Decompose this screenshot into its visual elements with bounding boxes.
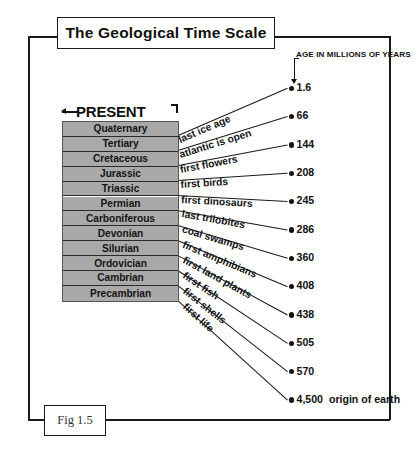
- age-dot: [289, 312, 294, 317]
- age-number: 1.6: [297, 81, 312, 93]
- age-number: 245: [297, 194, 315, 206]
- period-row[interactable]: Jurassic: [63, 167, 178, 182]
- age-value: 360: [297, 251, 315, 263]
- age-value: 144: [297, 138, 315, 150]
- age-number: 570: [297, 365, 315, 377]
- period-label: Tertiary: [102, 138, 138, 149]
- period-label: Cretaceous: [93, 153, 148, 164]
- period-row[interactable]: Quaternary: [63, 122, 178, 137]
- age-value: 1.6: [297, 81, 312, 93]
- age-number: 438: [297, 308, 315, 320]
- period-row[interactable]: Ordovician: [63, 256, 178, 271]
- origin-of-earth-note: origin of earth: [329, 393, 400, 405]
- period-row[interactable]: Silurian: [63, 241, 178, 256]
- period-row[interactable]: Cretaceous: [63, 152, 178, 167]
- period-row[interactable]: Tertiary: [63, 137, 178, 152]
- period-label: Precambrian: [90, 288, 151, 299]
- age-dot: [289, 86, 294, 91]
- age-value: 4,500 origin of earth: [297, 393, 401, 405]
- age-dot: [289, 171, 294, 176]
- age-value: 505: [297, 336, 315, 348]
- geological-time-scale-figure: The Geological Time Scale Fig 1.5 PRESEN…: [0, 0, 419, 459]
- age-number: 360: [297, 251, 315, 263]
- age-value: 286: [297, 223, 315, 235]
- period-label: Cambrian: [97, 272, 144, 283]
- period-row[interactable]: Triassic: [63, 182, 178, 197]
- age-number: 144: [297, 138, 315, 150]
- period-label: Permian: [101, 198, 141, 209]
- age-dot: [289, 114, 294, 119]
- age-dot: [289, 142, 294, 147]
- period-row[interactable]: Precambrian: [63, 286, 178, 301]
- age-dot: [289, 397, 294, 402]
- period-row[interactable]: Devonian: [63, 226, 178, 241]
- age-dot: [289, 341, 294, 346]
- age-value: 570: [297, 365, 315, 377]
- period-row[interactable]: Permian: [63, 197, 178, 212]
- age-dot: [289, 256, 294, 261]
- period-table: QuaternaryTertiaryCretaceousJurassicTria…: [62, 121, 179, 302]
- age-number: 4,500: [297, 393, 324, 405]
- period-label: Ordovician: [94, 258, 147, 269]
- period-row[interactable]: Carboniferous: [63, 211, 178, 226]
- period-row[interactable]: Cambrian: [63, 271, 178, 286]
- period-label: Triassic: [102, 183, 140, 194]
- period-label: Carboniferous: [86, 213, 155, 224]
- age-number: 286: [297, 223, 315, 235]
- age-dot: [289, 227, 294, 232]
- age-value: 438: [297, 308, 315, 320]
- period-label: Quaternary: [94, 123, 148, 134]
- period-label: Silurian: [102, 243, 139, 254]
- age-number: 505: [297, 336, 315, 348]
- age-number: 208: [297, 166, 315, 178]
- age-value: 208: [297, 166, 315, 178]
- period-label: Jurassic: [100, 168, 141, 179]
- age-number: 408: [297, 279, 315, 291]
- age-value: 245: [297, 194, 315, 206]
- age-number: 66: [297, 109, 309, 121]
- period-label: Devonian: [98, 228, 143, 239]
- age-value: 66: [297, 109, 309, 121]
- age-value: 408: [297, 279, 315, 291]
